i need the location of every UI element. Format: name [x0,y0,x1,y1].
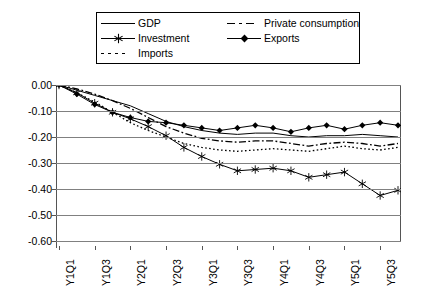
data-point-marker [198,152,205,160]
x-axis-tick [237,246,238,250]
data-point-marker [324,122,330,128]
legend-item-investment[interactable]: Investment [101,31,189,46]
x-axis-tick [202,246,203,250]
data-point-marker [306,125,312,131]
gridline [56,215,401,216]
x-axis-tick [309,246,310,250]
legend-column-left: GDP Investment Imports [101,16,189,61]
gridline [56,85,401,86]
series-line [59,85,398,196]
x-axis-tick [166,246,167,250]
x-axis-tick [273,246,274,250]
legend-label-private-consumption: Private consumption [261,16,359,31]
legend-item-private-consumption[interactable]: Private consumption [227,16,359,31]
data-point-marker [377,191,384,199]
y-axis-tick-label: 0.00 [6,80,52,90]
data-point-marker [270,125,276,131]
x-axis-tick-label: Y2Q1 [135,259,147,286]
line-dashdot-icon [227,16,261,31]
gridline [56,241,401,242]
x-axis-tick-label: Y2Q3 [171,259,183,286]
data-point-marker [377,120,383,126]
x-axis-tick-label: Y4Q3 [314,259,326,286]
x-axis-tick-label: Y3Q3 [242,259,254,286]
legend-label-gdp: GDP [135,16,161,31]
data-point-marker [234,125,240,131]
x-axis-tick-label: Y1Q1 [64,259,76,286]
legend-label-imports: Imports [135,46,173,61]
data-point-marker [395,122,401,128]
gridline [56,163,401,164]
data-point-marker [216,160,223,168]
x-axis-tick-label: Y4Q1 [278,259,290,286]
data-point-marker [341,126,347,132]
legend-label-exports: Exports [261,31,300,46]
data-point-marker [288,129,294,135]
y-axis-tick-label: -0.20 [6,132,52,142]
gridline [56,137,401,138]
series-exports [56,85,401,135]
plot-area [56,85,401,241]
x-axis-tick-label: Y3Q1 [207,259,219,286]
data-point-marker [252,122,258,128]
gridline [56,111,401,112]
x-axis-tick-label: Y1Q3 [100,259,112,286]
y-axis-tick-label: -0.10 [6,106,52,116]
data-point-marker [359,180,366,188]
x-axis-tick [344,246,345,250]
legend-item-imports[interactable]: Imports [101,46,189,61]
gridline [56,189,401,190]
legend-item-gdp[interactable]: GDP [101,16,189,31]
series-line [59,85,398,132]
x-axis-labels: Y1Q1Y1Q3Y2Q1Y2Q3Y3Q1Y3Q3Y4Q1Y4Q3Y5Q1Y5Q3 [56,246,401,291]
data-point-marker [359,122,365,128]
x-axis-tick [95,246,96,250]
chart-legend: GDP Investment Imports [96,12,360,64]
line-dotted-icon [101,46,135,61]
y-axis-tick-label: -0.40 [6,184,52,194]
x-axis-tick [380,246,381,250]
x-axis-tick-label: Y5Q1 [349,259,361,286]
y-axis-tick-label: -0.30 [6,158,52,168]
y-axis-tick-label: -0.60 [6,236,52,246]
line-solid-icon [101,16,135,31]
line-diamond-icon [227,31,261,46]
x-axis-tick-label: Y5Q3 [385,259,397,286]
x-axis-tick [130,246,131,250]
x-axis-tick [59,246,60,250]
legend-column-right: Private consumption Exports [227,16,359,46]
legend-item-exports[interactable]: Exports [227,31,359,46]
chart-root: GDP Investment Imports [0,0,421,291]
line-asterisk-icon [101,31,135,46]
data-point-marker [394,186,401,194]
y-axis-tick-label: -0.50 [6,210,52,220]
legend-label-investment: Investment [135,31,189,46]
